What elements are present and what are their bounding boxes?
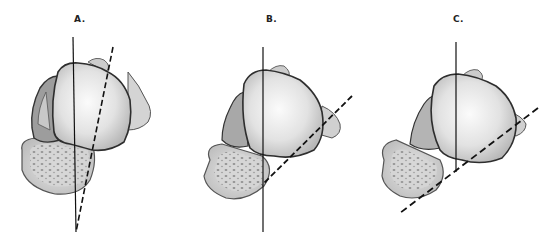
figure: A. B. C. — [0, 0, 550, 240]
panel-c-bone — [382, 70, 526, 198]
illustration — [0, 0, 550, 240]
panel-a-bone — [22, 58, 151, 194]
panel-b-bone — [204, 66, 340, 199]
